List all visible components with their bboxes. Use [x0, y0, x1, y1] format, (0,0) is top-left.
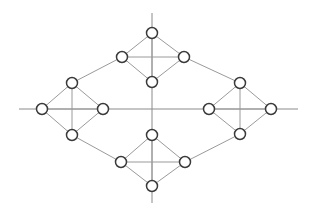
node-right-t	[235, 78, 246, 89]
node-left-t	[67, 78, 78, 89]
node-left-l	[37, 104, 48, 115]
node-bottom-r	[180, 157, 191, 168]
edge-bottom-t-bottom-r	[152, 135, 185, 162]
node-top-l	[117, 52, 128, 63]
graph-diagram	[0, 0, 314, 218]
edge-left-b-bottom-l	[72, 135, 121, 162]
node-right-r	[266, 104, 277, 115]
node-left-r	[98, 104, 109, 115]
axes	[19, 13, 298, 203]
node-top-b	[147, 77, 158, 88]
node-bottom-l	[116, 157, 127, 168]
node-bottom-b	[147, 181, 158, 192]
edge-right-b-bottom-r	[185, 134, 240, 162]
node-top-t	[147, 28, 158, 39]
node-left-b	[67, 130, 78, 141]
node-top-r	[179, 52, 190, 63]
node-right-b	[235, 129, 246, 140]
node-bottom-t	[147, 130, 158, 141]
edge-top-r-right-t	[184, 57, 240, 83]
node-right-l	[204, 104, 215, 115]
edge-top-l-left-t	[72, 57, 122, 83]
